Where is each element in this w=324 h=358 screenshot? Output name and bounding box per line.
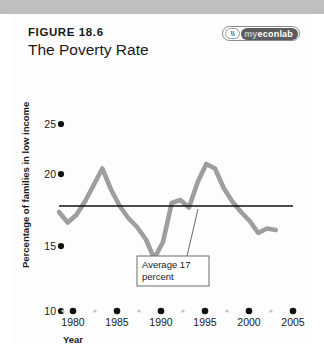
y-tick-label-20: 20 <box>44 168 56 180</box>
myeconlab-wordmark: myeconlab <box>241 28 298 40</box>
annotation-line-2: percent <box>142 271 174 282</box>
poverty-rate-series-line <box>59 164 276 259</box>
myeconlab-mark-icon: \\ <box>225 28 240 39</box>
x-axis-title: Year <box>63 334 83 344</box>
x-tick-dot-2000 <box>246 308 253 315</box>
y-tick-dot-25 <box>58 121 64 127</box>
x-tick-dot-minor-1992 <box>181 309 184 312</box>
x-tick-dot-1995 <box>202 308 209 315</box>
x-tick-dot-minor-1979 <box>61 309 64 312</box>
y-tick-label-25: 25 <box>44 118 56 130</box>
y-tick-label-10: 10 <box>44 305 56 317</box>
figure-header: FIGURE 18.6 The Poverty Rate \\ myeconla… <box>12 14 312 68</box>
x-tick-dot-minor-1982 <box>93 309 96 312</box>
y-tick-label-15: 15 <box>44 240 56 252</box>
y-tick-dot-20 <box>58 171 64 177</box>
x-tick-label-1980: 1980 <box>61 316 85 328</box>
figure-root: FIGURE 18.6 The Poverty Rate \\ myeconla… <box>0 0 324 358</box>
myeconlab-logo[interactable]: \\ myeconlab <box>222 26 300 41</box>
annotation-line-1: Average 17 <box>142 259 190 270</box>
y-axis-title: Percentage of families in low income <box>20 102 31 268</box>
x-tick-dot-minor-2002 <box>269 309 272 312</box>
x-tick-label-1995: 1995 <box>193 316 217 328</box>
figure-number: FIGURE 18.6 <box>28 26 104 38</box>
logo-text-main: econlab <box>258 29 293 39</box>
x-tick-dot-1980 <box>70 308 77 315</box>
top-gray-band <box>0 0 324 14</box>
figure-panel: FIGURE 18.6 The Poverty Rate \\ myeconla… <box>12 14 312 344</box>
x-tick-label-2000: 2000 <box>237 316 261 328</box>
logo-text-prefix: my <box>244 29 257 39</box>
x-tick-label-1985: 1985 <box>105 316 129 328</box>
x-tick-dot-minor-1997 <box>225 309 228 312</box>
x-tick-dot-1985 <box>114 308 121 315</box>
poverty-rate-line-chart: Percentage of families in low income 25 … <box>12 68 312 344</box>
x-tick-label-1990: 1990 <box>149 316 173 328</box>
x-tick-dot-2005 <box>290 308 297 315</box>
annotation-leader-line <box>187 209 198 256</box>
x-tick-label-2005: 2005 <box>281 316 305 328</box>
figure-title: The Poverty Rate <box>28 41 149 59</box>
x-tick-dot-minor-1987 <box>137 309 140 312</box>
x-tick-dot-1990 <box>158 308 165 315</box>
y-tick-dot-15 <box>58 243 64 249</box>
y-axis-group: Percentage of families in low income 25 … <box>20 102 64 317</box>
chart-area: Percentage of families in low income 25 … <box>12 68 312 344</box>
x-axis-group: 1980 1985 1990 1995 2000 2005 Year <box>61 308 305 344</box>
